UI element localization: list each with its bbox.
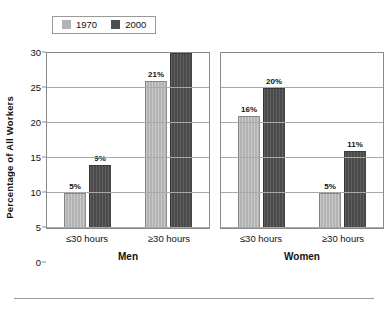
gridline-5 [47,227,209,228]
bar-group-women-0: 16%20% [221,53,302,228]
y-axis-tick-label-30: 30 [30,47,41,58]
panel-men: 5%9%21%27% ≤30 hours ≥30 hours Men [46,52,210,262]
bar-group-women-1: 5%11% [302,53,383,228]
bar-wrapper-2000-0: 20% [263,53,285,228]
category-label-women-1: ≥30 hours [302,233,384,244]
panel-women: 16%20%5%11% ≤30 hours ≥30 hours Women [220,52,384,262]
legend-swatch-icon-1970 [62,20,71,29]
y-axis-tick-label-20: 20 [30,117,41,128]
y-axis-tick-label-5: 5 [36,222,41,233]
y-axis-tick-label-0: 0 [36,257,41,268]
bar-2000-women-1[interactable] [344,151,366,228]
bar-value-label: 5% [324,182,336,191]
legend-swatch-icon-2000 [111,20,120,29]
category-labels-women: ≤30 hours ≥30 hours [220,233,384,244]
panel-title-men: Men [46,251,210,262]
bar-wrapper-1970-0: 16% [238,53,260,228]
bar-1970-women-0[interactable] [238,116,260,228]
bar-wrapper-1970-1: 21% [145,53,167,228]
legend-label-2000: 2000 [125,20,146,30]
y-axis-tick-label-25: 25 [30,82,41,93]
category-labels-men: ≤30 hours ≥30 hours [46,233,210,244]
bar-wrapper-2000-0: 9% [89,53,111,228]
bar-wrapper-2000-1: 11% [344,53,366,228]
legend-entry-1970: 1970 [62,20,97,30]
chart-legend: 1970 2000 [52,16,156,34]
bar-value-label: 9% [94,154,106,163]
bar-wrapper-1970-1: 5% [319,53,341,228]
bar-1970-women-1[interactable] [319,193,341,228]
chart-panels: 5%9%21%27% ≤30 hours ≥30 hours Men 16%20… [46,52,384,262]
y-axis-title: Percentage of All Workers [2,52,16,262]
category-label-men-0: ≤30 hours [46,233,128,244]
bar-value-label: 5% [69,182,81,191]
bar-wrapper-2000-1: 27% [170,53,192,228]
legend-entry-2000: 2000 [111,20,146,30]
gridline-10 [221,192,383,193]
gridline-15 [221,157,383,158]
bar-2000-men-1[interactable] [170,53,192,228]
bar-value-label: 16% [241,105,257,114]
bar-2000-women-0[interactable] [263,88,285,228]
bar-group-men-1: 21%27% [128,53,209,228]
gridline-25 [221,87,383,88]
plot-area-men: 5%9%21%27% [46,52,210,229]
panel-title-women: Women [220,251,384,262]
gridline-20 [47,122,209,123]
bar-chart-figure: 1970 2000 Percentage of All Workers 0510… [0,0,388,309]
y-axis-ticks: 051015202530 [16,52,46,262]
bar-groups-women: 16%20%5%11% [221,53,383,228]
bar-value-label: 11% [347,140,363,149]
gridline-15 [47,157,209,158]
bar-value-label: 20% [266,77,282,86]
category-label-women-0: ≤30 hours [220,233,302,244]
gridline-10 [47,192,209,193]
bar-value-label: 21% [148,70,164,79]
gridline-5 [221,227,383,228]
y-axis-tick-label-10: 10 [30,187,41,198]
y-axis-title-text: Percentage of All Workers [4,96,15,219]
gridline-25 [47,87,209,88]
bar-1970-men-0[interactable] [64,193,86,228]
y-axis-tick-label-15: 15 [30,152,41,163]
plot-area-women: 16%20%5%11% [220,52,384,229]
bar-groups-men: 5%9%21%27% [47,53,209,228]
bar-wrapper-1970-0: 5% [64,53,86,228]
bar-1970-men-1[interactable] [145,81,167,228]
bar-2000-men-0[interactable] [89,165,111,228]
footer-divider [14,298,374,299]
gridline-20 [221,122,383,123]
legend-label-1970: 1970 [76,20,97,30]
bar-group-men-0: 5%9% [47,53,128,228]
category-label-men-1: ≥30 hours [128,233,210,244]
